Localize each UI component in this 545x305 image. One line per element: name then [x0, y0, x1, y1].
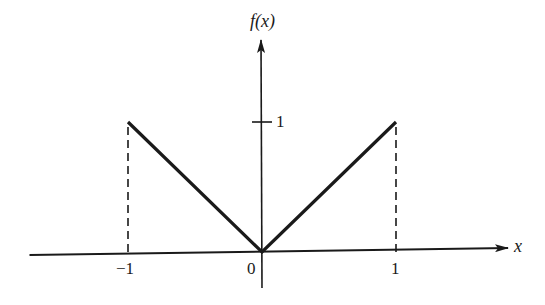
x-tick-label: 0	[247, 260, 256, 277]
plot-canvas	[0, 0, 545, 305]
y-axis-label: f(x)	[250, 12, 275, 30]
x-tick-label: −1	[116, 260, 134, 277]
x-axis-label: x	[514, 237, 522, 255]
axes	[30, 40, 509, 288]
function-plot: f(x) x −101 1	[0, 0, 545, 305]
y-tick-label: 1	[276, 113, 285, 130]
x-axis	[30, 248, 509, 255]
x-tick-label: 1	[391, 260, 400, 277]
